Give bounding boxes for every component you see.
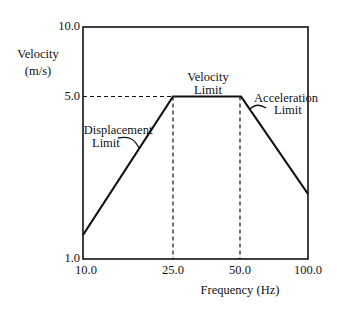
velocity-limit-label-line2: Limit	[178, 83, 238, 97]
y-tick-10: 10.0	[40, 19, 80, 33]
x-tick-10: 10.0	[66, 263, 106, 277]
y-tick-5: 5.0	[40, 89, 80, 103]
acceleration-limit-label-line2: Limit	[274, 103, 302, 117]
x-tick-50: 50.0	[220, 263, 260, 277]
displacement-callout	[118, 137, 139, 148]
y-axis-label-line2: (m/s)	[10, 64, 66, 78]
x-tick-25: 25.0	[153, 263, 193, 277]
displacement-limit-label-line2: Limit	[92, 136, 120, 150]
y-axis-label-line1: Velocity	[10, 47, 66, 61]
velocity-limit-label-line1: Velocity	[178, 70, 238, 84]
displacement-limit-label-line1: Displacement	[80, 123, 156, 137]
x-tick-100: 100.0	[286, 263, 330, 277]
acceleration-callout	[250, 105, 266, 109]
envelope-line	[83, 97, 308, 236]
x-axis-label: Frequency (Hz)	[190, 283, 290, 297]
